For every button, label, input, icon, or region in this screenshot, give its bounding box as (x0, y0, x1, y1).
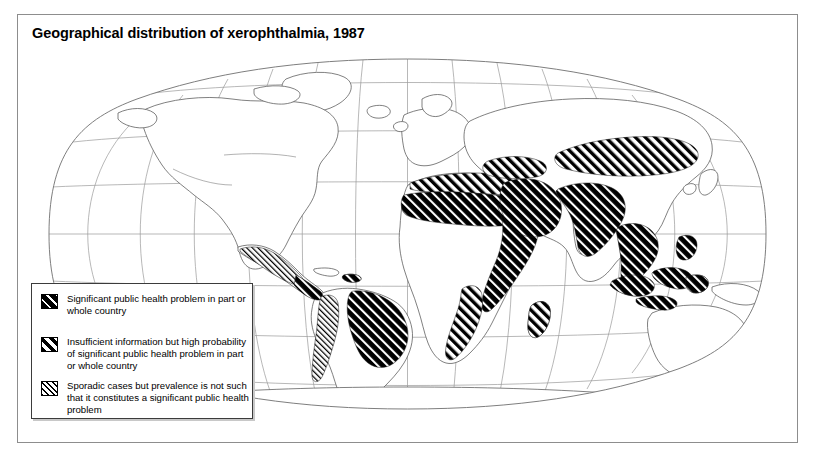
legend-label-sporadic: Sporadic cases but prevalence is not suc… (67, 380, 249, 417)
legend-item-sporadic: Sporadic cases but prevalence is not suc… (41, 380, 249, 417)
figure-root: Geographical distribution of xerophthalm… (0, 0, 815, 459)
legend-swatch-significant-icon (41, 294, 58, 309)
legend-swatch-sporadic-icon (41, 381, 58, 396)
legend-item-insufficient: Insufficient information but high probab… (41, 336, 249, 373)
region-sulawesi (685, 275, 708, 293)
figure-panel: Geographical distribution of xerophthalm… (17, 14, 798, 443)
legend-label-insufficient: Insufficient information but high probab… (67, 336, 249, 373)
legend-swatch-insufficient-icon (41, 337, 58, 352)
region-turkey-caucasus (483, 157, 547, 179)
map-legend: Significant public health problem in par… (31, 283, 253, 419)
legend-item-significant: Significant public health problem in par… (41, 293, 249, 317)
legend-label-significant: Significant public health problem in par… (67, 293, 249, 317)
